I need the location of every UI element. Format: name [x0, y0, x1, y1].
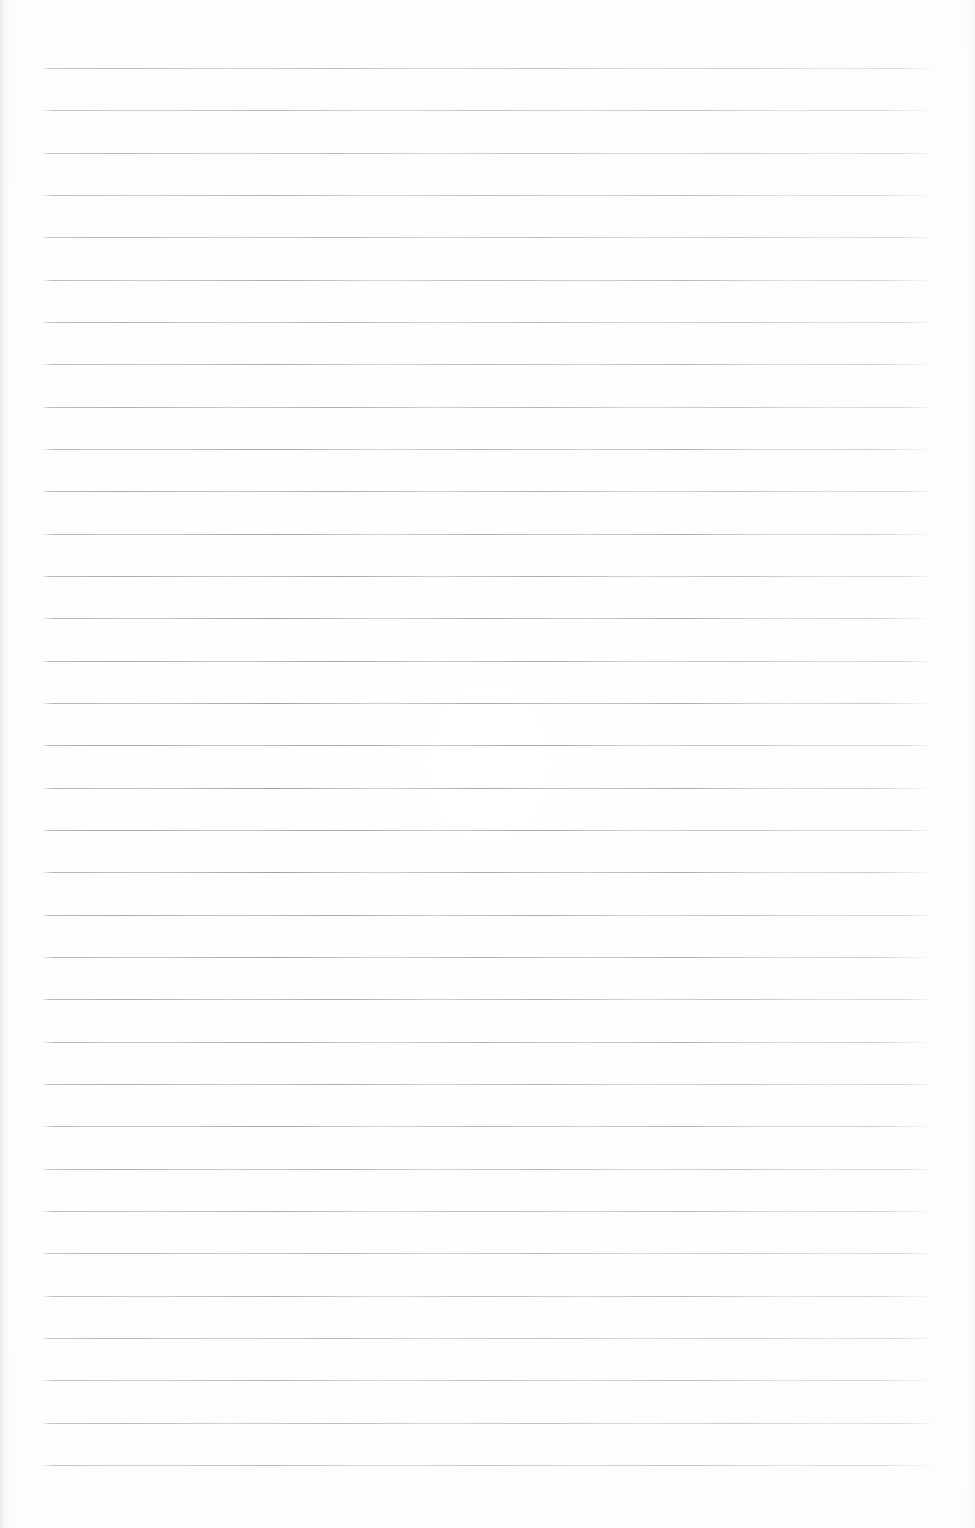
ruled-line — [42, 576, 935, 577]
ruled-line — [42, 1423, 935, 1424]
ruled-line — [42, 322, 935, 323]
ruled-lines-group — [0, 0, 975, 1528]
ruled-line — [42, 1253, 935, 1254]
ruled-line — [42, 68, 935, 69]
ruled-line — [42, 788, 935, 789]
ruled-line — [42, 999, 935, 1000]
ruled-line — [42, 153, 935, 154]
ruled-line — [42, 915, 935, 916]
scanned-notebook-page — [0, 0, 975, 1528]
ruled-line — [42, 872, 935, 873]
ruled-line — [42, 1042, 935, 1043]
ruled-line — [42, 703, 935, 704]
ruled-line — [42, 364, 935, 365]
ruled-line — [42, 534, 935, 535]
ruled-line — [42, 1338, 935, 1339]
ruled-line — [42, 195, 935, 196]
ruled-line — [42, 110, 935, 111]
ruled-line — [42, 957, 935, 958]
ruled-line — [42, 1084, 935, 1085]
ruled-line — [42, 280, 935, 281]
ruled-line — [42, 745, 935, 746]
ruled-line — [42, 618, 935, 619]
ruled-line — [42, 1211, 935, 1212]
ruled-line — [42, 830, 935, 831]
ruled-line — [42, 661, 935, 662]
ruled-line — [42, 407, 935, 408]
ruled-line — [42, 1465, 935, 1466]
ruled-line — [42, 449, 935, 450]
ruled-line — [42, 1169, 935, 1170]
ruled-line — [42, 1126, 935, 1127]
ruled-line — [42, 237, 935, 238]
ruled-line — [42, 1296, 935, 1297]
ruled-line — [42, 1380, 935, 1381]
ruled-line — [42, 491, 935, 492]
